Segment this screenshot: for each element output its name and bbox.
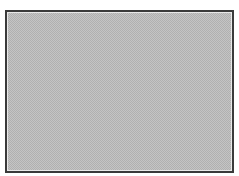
canvas	[0, 0, 239, 176]
dithered-gray-panel	[5, 10, 234, 173]
